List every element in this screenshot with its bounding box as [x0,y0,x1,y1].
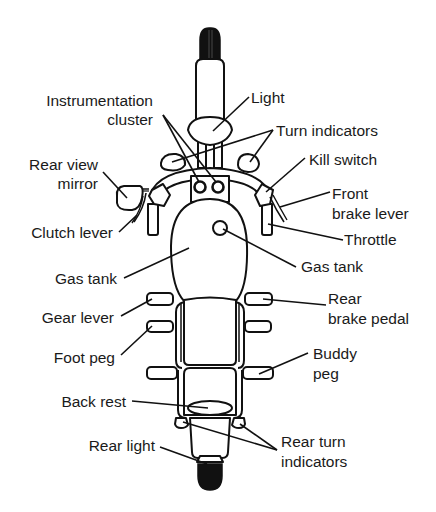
rider-seat [184,298,236,366]
label-gas-tank-left: Gas tank [55,270,117,287]
gas-cap [213,221,227,235]
label-rear-view-mirror-1: Rear view [29,156,99,173]
motorcycle-diagram: Instrumentation cluster Light Turn indic… [0,0,436,512]
rear-tire [198,464,222,490]
label-front-brake-lever-2: brake lever [332,205,409,222]
label-instrumentation-cluster-1: Instrumentation [46,92,153,109]
label-rear-brake-pedal-1: Rear [328,290,362,307]
label-gear-lever: Gear lever [42,309,114,326]
label-kill-switch: Kill switch [309,151,377,168]
gauge-left [195,182,206,193]
label-buddy-peg-2: peg [313,365,339,382]
buddy-peg-right [243,367,273,379]
foot-peg-right [245,321,271,332]
label-front-brake-lever-1: Front [332,185,369,202]
rear-fender [190,418,230,458]
gas-tank [171,199,247,301]
label-light: Light [251,89,285,106]
label-rear-view-mirror-2: mirror [58,175,98,192]
front-fender [196,59,224,122]
rear-view-mirror [117,186,143,210]
front-turn-indicator-right [238,154,259,172]
label-rear-light: Rear light [89,437,156,454]
front-tire [200,28,220,60]
label-throttle: Throttle [344,231,397,248]
back-rest [188,401,232,415]
label-rear-brake-pedal-2: brake pedal [328,310,409,327]
left-grip [148,204,158,235]
label-foot-peg: Foot peg [54,349,115,366]
gauge-right [213,182,224,193]
label-buddy-peg-1: Buddy [313,345,357,362]
label-clutch-lever: Clutch lever [31,224,113,241]
label-back-rest: Back rest [61,393,126,410]
buddy-peg-left [147,367,177,379]
right-grip [262,204,272,235]
label-rear-turn-indicators-2: indicators [281,453,348,470]
label-instrumentation-cluster-2: cluster [107,111,153,128]
label-turn-indicators: Turn indicators [276,122,378,139]
label-gas-tank-right: Gas tank [301,258,363,275]
headlight [188,117,232,145]
label-rear-turn-indicators-1: Rear turn [281,433,346,450]
